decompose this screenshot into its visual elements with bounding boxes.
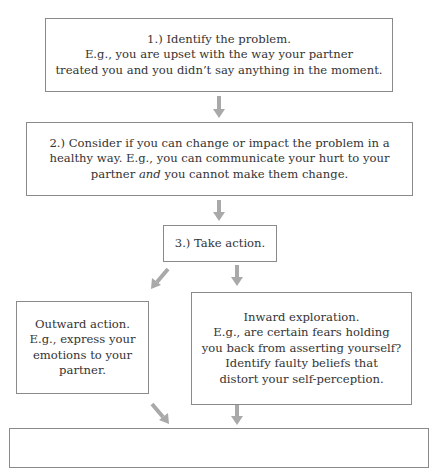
result-box — [9, 428, 429, 468]
inward-line3: Identify faulty beliefs that — [225, 356, 378, 372]
arrow-down-left-icon — [148, 266, 172, 292]
step2-line3-pre: partner — [91, 167, 139, 181]
inward-exploration-box: Inward exploration. E.g., are certain fe… — [191, 292, 412, 405]
inward-line2: you back from asserting yourself? — [202, 341, 401, 357]
outward-line3: partner. — [59, 363, 106, 379]
inward-line1: E.g., are certain fears holding — [213, 325, 389, 341]
arrow-down-icon — [230, 405, 244, 429]
step1-identify-problem-box: 1.) Identify the problem. E.g., you are … — [45, 18, 393, 92]
step1-example-line2: treated you and you didn’t say anything … — [55, 63, 382, 79]
arrow-down-icon — [212, 200, 226, 224]
step3-take-action-box: 3.) Take action. — [163, 225, 277, 262]
arrow-down-right-icon — [148, 401, 172, 427]
step1-example-line1: E.g., you are upset with the way your pa… — [85, 47, 353, 63]
outward-line1: E.g., express your — [30, 332, 136, 348]
outward-action-box: Outward action. E.g., express your emoti… — [16, 301, 149, 394]
step1-title: 1.) Identify the problem. — [147, 32, 291, 48]
arrow-down-icon — [212, 96, 226, 120]
step3-title: 3.) Take action. — [175, 236, 266, 252]
step2-line1: 2.) Consider if you can change or impact… — [49, 136, 389, 152]
step2-consider-change-box: 2.) Consider if you can change or impact… — [26, 122, 413, 196]
step2-line3-post: you cannot make them change. — [161, 167, 348, 181]
outward-title: Outward action. — [35, 317, 130, 333]
arrow-down-icon — [230, 265, 244, 289]
inward-title: Inward exploration. — [244, 310, 360, 326]
outward-line2: emotions to your — [33, 348, 132, 364]
step2-line2: healthy way. E.g., you can communicate y… — [49, 151, 389, 167]
step2-line3-emphasis: and — [139, 167, 161, 181]
step2-line3: partner and you cannot make them change. — [91, 167, 348, 183]
inward-line4: distort your self-perception. — [219, 372, 383, 388]
